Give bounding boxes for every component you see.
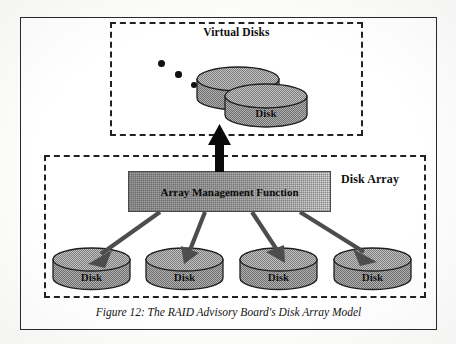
array-disk-cylinder: Disk: [333, 247, 412, 292]
array-management-function-label: Array Management Function: [129, 172, 330, 211]
array-disk-cylinder: Disk: [52, 247, 131, 292]
ellipsis-dot-icon: [175, 71, 182, 78]
ellipsis-dot-icon: [158, 60, 165, 67]
disk-array-title: Disk Array: [341, 172, 399, 187]
array-management-function-box: Array Management Function: [128, 171, 331, 212]
array-disk-cylinder: Disk: [145, 247, 224, 292]
figure-caption: Figure 12: The RAID Advisory Board's Dis…: [28, 306, 429, 318]
virtual-disk-cylinder: Disk: [224, 83, 308, 129]
virtual-disks-title: Virtual Disks: [110, 26, 363, 38]
array-disk-cylinder: Disk: [239, 247, 318, 292]
